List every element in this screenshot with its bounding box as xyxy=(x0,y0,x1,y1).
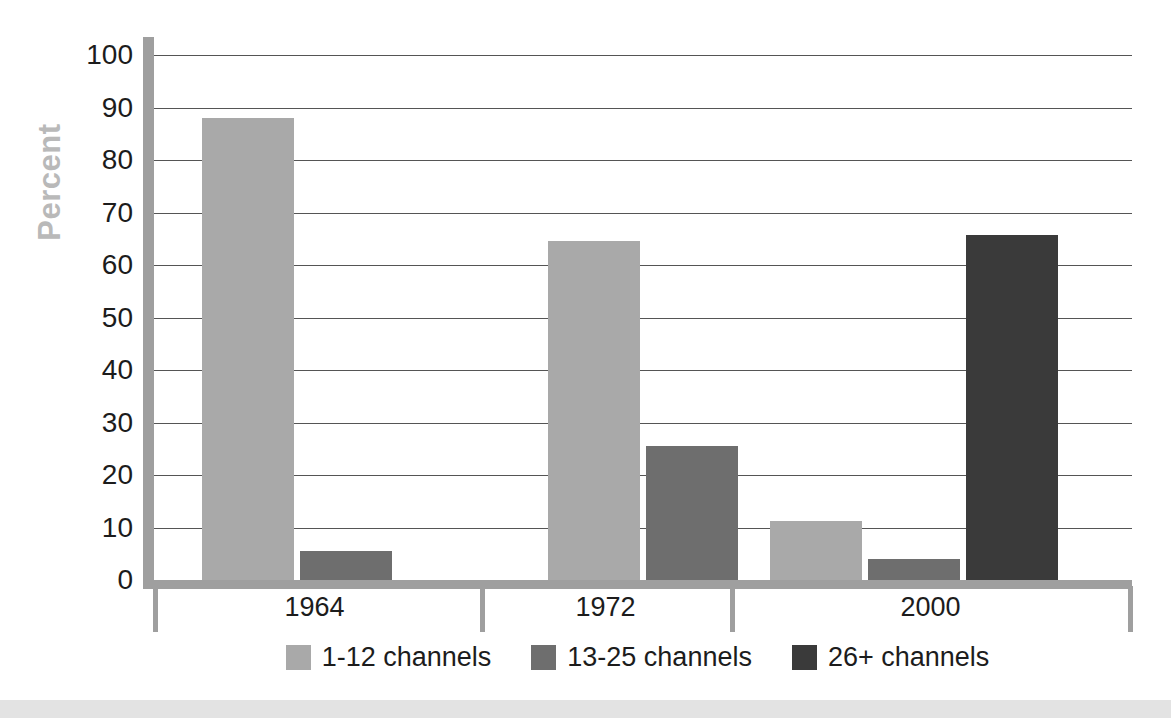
x-category-label: 1964 xyxy=(151,592,478,623)
x-axis-rail xyxy=(143,580,1132,588)
y-tick-label: 50 xyxy=(55,304,133,332)
y-tick-label: 30 xyxy=(55,409,133,437)
x-axis: 196419722000 xyxy=(143,580,1132,632)
legend-swatch-icon xyxy=(286,645,311,670)
gridline xyxy=(154,55,1132,56)
bar xyxy=(548,241,640,580)
page-edge-band xyxy=(0,700,1171,718)
y-axis-tick-labels: 1009080706050403020100 xyxy=(55,0,133,718)
y-tick-label: 70 xyxy=(55,199,133,227)
legend-item: 1-12 channels xyxy=(286,642,492,673)
plot-area xyxy=(143,55,1132,580)
x-category-label: 2000 xyxy=(733,592,1128,623)
gridline xyxy=(154,108,1132,109)
x-category-label: 1972 xyxy=(483,592,728,623)
gridline xyxy=(154,160,1132,161)
legend-label: 1-12 channels xyxy=(322,642,492,673)
legend-item: 26+ channels xyxy=(792,642,989,673)
bar xyxy=(202,118,294,580)
bar xyxy=(300,551,392,580)
y-tick-label: 10 xyxy=(55,514,133,542)
bar xyxy=(966,235,1058,580)
y-tick-label: 40 xyxy=(55,356,133,384)
bar xyxy=(770,521,862,580)
bar xyxy=(868,559,960,580)
y-tick-label: 80 xyxy=(55,146,133,174)
y-tick-label: 90 xyxy=(55,94,133,122)
legend-item: 13-25 channels xyxy=(531,642,752,673)
chart-figure: Percent 1009080706050403020100 196419722… xyxy=(0,0,1171,718)
gridline xyxy=(154,213,1132,214)
legend-swatch-icon xyxy=(792,645,817,670)
bar xyxy=(646,446,738,580)
y-tick-label: 20 xyxy=(55,461,133,489)
chart-legend: 1-12 channels13-25 channels26+ channels xyxy=(143,640,1132,674)
legend-swatch-icon xyxy=(531,645,556,670)
legend-label: 26+ channels xyxy=(828,642,989,673)
legend-label: 13-25 channels xyxy=(567,642,752,673)
y-tick-label: 0 xyxy=(55,566,133,594)
y-tick-label: 60 xyxy=(55,251,133,279)
y-axis-spine xyxy=(143,37,154,580)
x-axis-tick xyxy=(1128,586,1133,632)
y-tick-label: 100 xyxy=(55,41,133,69)
